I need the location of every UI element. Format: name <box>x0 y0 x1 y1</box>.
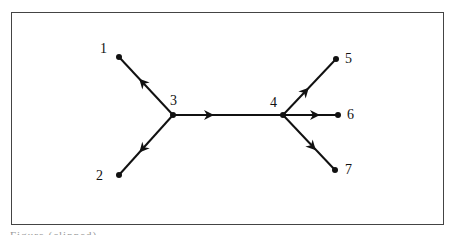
node-1-dot <box>116 54 122 60</box>
node-label-2: 2 <box>96 169 103 183</box>
node-label-3: 3 <box>170 94 177 108</box>
edge-3-1 <box>119 57 173 115</box>
edge-4-5 <box>283 59 336 115</box>
node-3-dot <box>170 112 176 118</box>
node-label-7: 7 <box>345 163 352 177</box>
node-label-4: 4 <box>270 96 277 110</box>
edge-4-7 <box>283 115 335 170</box>
node-4-dot <box>280 112 286 118</box>
node-6-dot <box>335 112 341 118</box>
edge-3-2 <box>119 115 173 175</box>
node-label-5: 5 <box>345 52 352 66</box>
node-5-dot <box>333 56 339 62</box>
tree-diagram <box>0 0 456 235</box>
caption-text: Figure (clipped) <box>10 230 210 235</box>
node-7-dot <box>332 167 338 173</box>
node-label-1: 1 <box>100 42 107 56</box>
figure-caption: Figure (clipped) <box>10 230 210 235</box>
node-label-6: 6 <box>347 108 354 122</box>
node-2-dot <box>116 172 122 178</box>
